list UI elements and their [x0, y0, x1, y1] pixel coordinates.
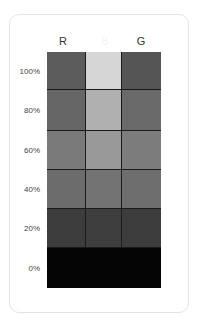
column-header-b: B [90, 34, 120, 48]
row-label-100: 100% [10, 67, 40, 77]
swatch-cell [122, 52, 161, 90]
column-header-g: G [126, 34, 156, 48]
swatch-cell [122, 170, 161, 209]
column-header-r: R [48, 34, 78, 48]
row-label-80: 80% [10, 106, 40, 116]
swatch-cell [47, 248, 86, 288]
swatch-cell [86, 131, 122, 170]
swatch-grid [47, 52, 161, 288]
row-label-20: 20% [10, 224, 40, 234]
swatch-cell [86, 90, 122, 131]
swatch-cell [122, 209, 161, 248]
swatch-cell [47, 52, 86, 90]
swatch-cell [122, 248, 161, 288]
swatch-cell [122, 90, 161, 131]
swatch-cell [47, 131, 86, 170]
row-label-40: 40% [10, 185, 40, 195]
swatch-cell [47, 170, 86, 209]
row-label-0: 0% [10, 264, 40, 274]
swatch-cell [122, 131, 161, 170]
swatch-cell [47, 209, 86, 248]
swatch-cell [86, 52, 122, 90]
swatch-cell [86, 209, 122, 248]
swatch-cell [47, 90, 86, 131]
row-label-60: 60% [10, 146, 40, 156]
swatch-cell [86, 170, 122, 209]
swatch-cell [86, 248, 122, 288]
